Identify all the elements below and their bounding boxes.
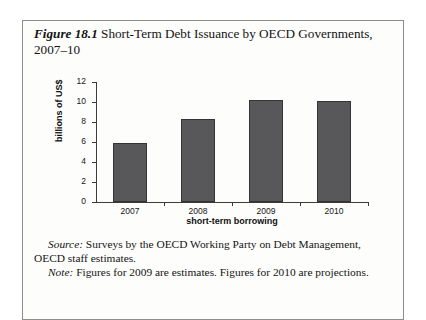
bar bbox=[113, 143, 147, 202]
source-text: Surveys by the OECD Working Party on Deb… bbox=[34, 238, 361, 264]
y-tick: 2 bbox=[92, 182, 96, 183]
bar bbox=[181, 119, 215, 202]
note-text: Figures for 2009 are estimates. Figures … bbox=[73, 266, 368, 278]
y-tick: 6 bbox=[92, 142, 96, 143]
y-tick: 0 bbox=[92, 202, 96, 203]
y-axis-line bbox=[96, 82, 97, 202]
y-tick-label: 4 bbox=[81, 156, 86, 166]
note-line: Note: Figures for 2009 are estimates. Fi… bbox=[34, 265, 392, 279]
source-note: Source: Surveys by the OECD Working Part… bbox=[34, 237, 392, 265]
note-label: Note: bbox=[48, 266, 73, 278]
y-tick: 8 bbox=[92, 122, 96, 123]
plot-area: 024681012 2007200820092010 bbox=[96, 82, 368, 202]
bar-chart: billions of US$ short-term borrowing 024… bbox=[56, 76, 376, 234]
source-label: Source: bbox=[48, 238, 83, 250]
x-tick-label: 2009 bbox=[231, 206, 301, 216]
x-tick-label: 2008 bbox=[163, 206, 233, 216]
y-tick-label: 12 bbox=[77, 76, 86, 86]
y-tick-label: 10 bbox=[77, 96, 86, 106]
y-tick: 12 bbox=[92, 82, 96, 83]
y-axis-title: billions of US$ bbox=[54, 79, 64, 142]
y-tick: 4 bbox=[92, 162, 96, 163]
bar bbox=[317, 101, 351, 202]
x-tick-label: 2007 bbox=[95, 206, 165, 216]
y-tick-label: 2 bbox=[81, 176, 86, 186]
bar bbox=[249, 100, 283, 202]
y-tick: 10 bbox=[92, 102, 96, 103]
y-tick-label: 0 bbox=[81, 196, 86, 206]
figure-notes: Source: Surveys by the OECD Working Part… bbox=[34, 237, 392, 279]
figure-number: Figure 18.1 bbox=[34, 26, 98, 41]
figure-caption: Figure 18.1 Short-Term Debt Issuance by … bbox=[34, 26, 374, 57]
x-axis-title: short-term borrowing bbox=[96, 216, 368, 226]
y-tick-label: 6 bbox=[81, 136, 86, 146]
x-tick-label: 2010 bbox=[299, 206, 369, 216]
y-tick-label: 8 bbox=[81, 116, 86, 126]
